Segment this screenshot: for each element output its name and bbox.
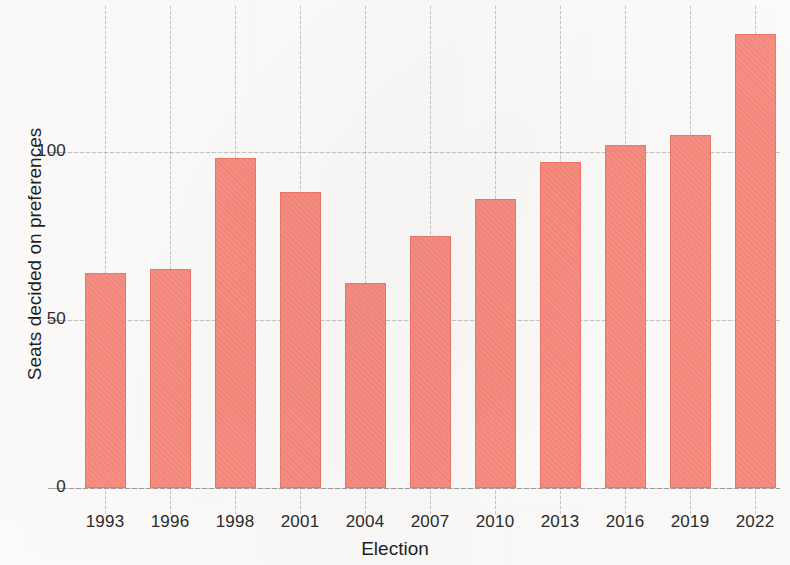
x-tick-label: 1993 <box>69 512 141 532</box>
x-tick-label: 1996 <box>134 512 206 532</box>
bar <box>540 162 581 488</box>
bar <box>85 273 126 488</box>
plot-area: 050100 199319961998200120042007201020132… <box>0 0 790 565</box>
x-tick-label: 2022 <box>719 512 790 532</box>
y-axis-label: Seats decided on preferences <box>24 89 46 419</box>
x-tick-label: 2013 <box>524 512 596 532</box>
bar <box>215 158 256 488</box>
bar <box>735 34 776 488</box>
x-axis-label: Election <box>0 538 790 560</box>
x-tick-label: 2019 <box>654 512 726 532</box>
bar <box>410 236 451 488</box>
bar <box>475 199 516 488</box>
bar <box>345 283 386 488</box>
x-tick-label: 2004 <box>329 512 401 532</box>
x-tick-label: 1998 <box>199 512 271 532</box>
x-tick-label: 2016 <box>589 512 661 532</box>
x-tick-label: 2001 <box>264 512 336 532</box>
bar <box>605 145 646 488</box>
bar <box>670 135 711 488</box>
x-tick-label: 2007 <box>394 512 466 532</box>
bar-chart-figure: 050100 199319961998200120042007201020132… <box>0 0 790 565</box>
bar <box>150 269 191 488</box>
bar <box>280 192 321 488</box>
y-tick-label: 0 <box>6 477 66 497</box>
x-tick-label: 2010 <box>459 512 531 532</box>
